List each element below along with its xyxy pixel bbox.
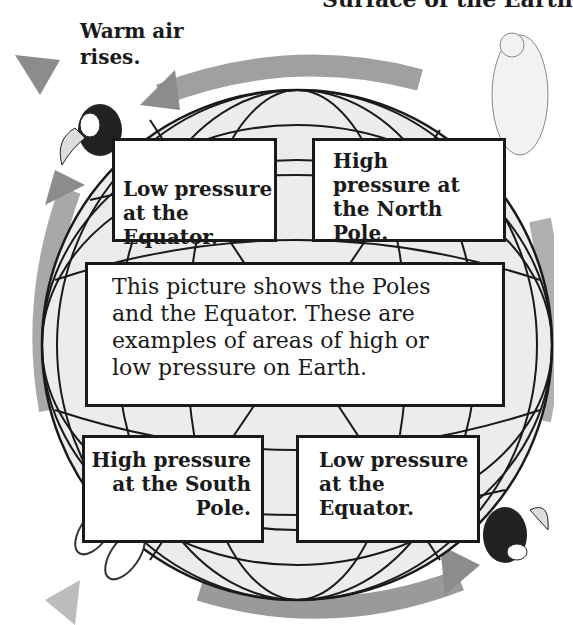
explanation-text: and the Equator. These are xyxy=(112,300,490,327)
box-text: Pole. xyxy=(85,496,251,520)
clipped-title: Surface of the Earth xyxy=(322,0,573,12)
arrow-head-upleft xyxy=(15,55,60,95)
box-text: High xyxy=(333,149,503,173)
box-text: at the Equator. xyxy=(123,201,274,249)
arrow-head-bottomleft xyxy=(45,580,80,625)
box-text: pressure at xyxy=(333,173,503,197)
explanation-text: This picture shows the Poles xyxy=(112,273,490,300)
toucan-bottom-right xyxy=(483,507,548,563)
arrow-head-top xyxy=(140,70,180,110)
polar-bear xyxy=(492,33,548,155)
low-pressure-equator-box-bottom: Low pressure at the Equator. xyxy=(296,435,480,543)
box-text: High pressure xyxy=(85,448,251,472)
high-pressure-north-pole-box: High pressure at the North Pole. xyxy=(312,138,506,242)
explanation-text: low pressure on Earth. xyxy=(112,354,490,381)
explanation-box: This picture shows the Poles and the Equ… xyxy=(85,262,505,407)
low-pressure-equator-box-top: Low pressure at the Equator. xyxy=(112,138,277,242)
box-text: at the Equator. xyxy=(319,472,477,520)
box-text: Low pressure xyxy=(123,177,274,201)
box-text: the North Pole. xyxy=(333,197,503,245)
explanation-text: examples of areas of high or xyxy=(112,327,490,354)
warm-air-label: Warm air rises. xyxy=(80,18,190,70)
box-text: Low pressure xyxy=(319,448,477,472)
box-text: at the South xyxy=(85,472,251,496)
high-pressure-south-pole-box: High pressure at the South Pole. xyxy=(82,435,264,543)
